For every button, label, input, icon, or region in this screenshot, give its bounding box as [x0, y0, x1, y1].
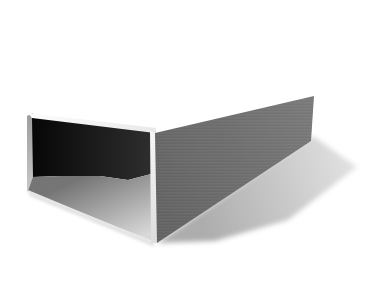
figure: [0, 0, 374, 289]
render-canvas: [0, 0, 374, 289]
duct-interior-floor: [28, 173, 155, 242]
